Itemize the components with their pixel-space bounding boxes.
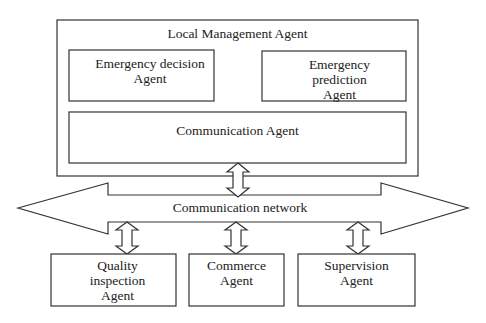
double-arrow-supervision: [347, 222, 369, 254]
double-arrow-commerce: [225, 222, 247, 254]
quality-inspection-label: Quality inspection Agent: [60, 258, 175, 303]
commerce-label: Commerce Agent: [189, 258, 284, 288]
communication-network-label: Communication network: [140, 200, 340, 215]
supervision-label: Supervision Agent: [298, 258, 415, 288]
emergency-decision-label: Emergency decision Agent: [80, 56, 220, 86]
double-arrow-quality: [116, 222, 138, 254]
communication-agent-label: Communication Agent: [69, 123, 406, 138]
local-management-title: Local Management Agent: [57, 26, 418, 41]
emergency-prediction-label: Emergency prediction Agent: [262, 57, 417, 102]
